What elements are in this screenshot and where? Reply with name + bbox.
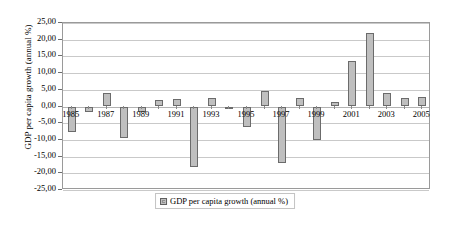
legend-label: GDP per capita growth (annual %) <box>170 196 288 206</box>
x-tick-mark <box>369 106 370 109</box>
y-tick-label: -5,00 <box>0 117 56 126</box>
legend-swatch-icon <box>160 198 167 205</box>
x-tick-mark <box>158 106 159 109</box>
y-tick-label: -10,00 <box>0 134 56 143</box>
x-tick-mark <box>193 106 194 109</box>
y-tick-label: -15,00 <box>0 151 56 160</box>
chart-legend: GDP per capita growth (annual %) <box>155 193 295 209</box>
x-tick-mark <box>334 106 335 109</box>
x-tick-label: 2001 <box>334 110 368 119</box>
chart-container: GDP per capita growth (annual %) 25,0020… <box>0 0 450 229</box>
x-tick-label: 1999 <box>299 110 333 119</box>
x-tick-mark <box>123 106 124 109</box>
x-tick-mark <box>264 106 265 109</box>
x-tick-mark <box>299 106 300 109</box>
x-tick-label: 1987 <box>89 110 123 119</box>
x-tick-label: 1995 <box>229 110 263 119</box>
y-axis-ticks: 25,0020,0015,0010,005,000,00-5,00-10,00-… <box>0 0 62 229</box>
y-tick-label: 5,00 <box>0 84 56 93</box>
x-tick-mark <box>228 106 229 109</box>
x-tick-mark <box>88 106 89 109</box>
x-tick-mark <box>404 106 405 109</box>
x-tick-label: 1989 <box>124 110 158 119</box>
y-tick-label: 25,00 <box>0 17 56 26</box>
x-tick-label: 1993 <box>194 110 228 119</box>
y-tick-label: 15,00 <box>0 50 56 59</box>
x-tick-label: 2005 <box>404 110 438 119</box>
y-tick-label: 20,00 <box>0 34 56 43</box>
x-tick-label: 1991 <box>159 110 193 119</box>
y-tick-label: 10,00 <box>0 67 56 76</box>
y-tick-label: -25,00 <box>0 184 56 193</box>
y-tick-label: -20,00 <box>0 167 56 176</box>
x-tick-label: 1997 <box>264 110 298 119</box>
x-tick-label: 2003 <box>369 110 403 119</box>
x-tick-label: 1985 <box>54 110 88 119</box>
y-tick-label: 0,00 <box>0 101 56 110</box>
